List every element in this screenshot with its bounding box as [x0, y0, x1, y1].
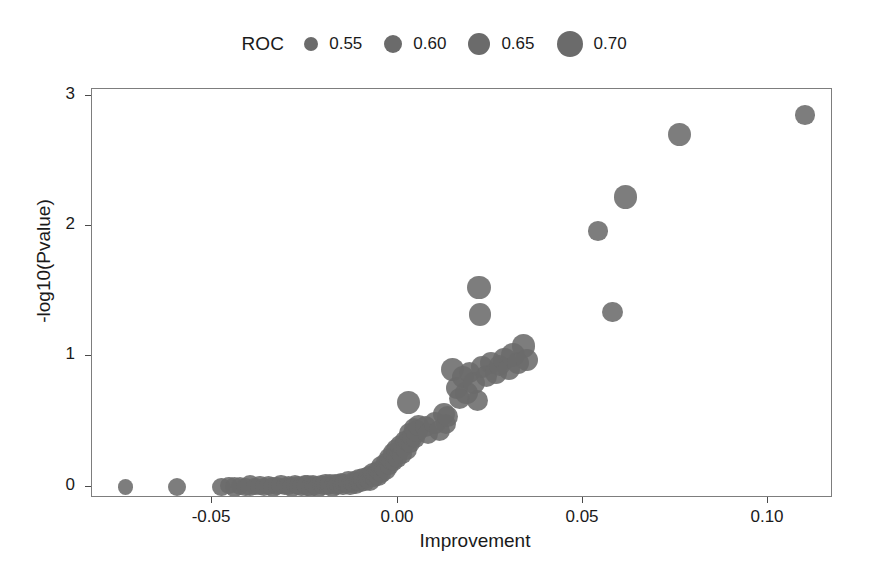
legend-dot-icon	[557, 31, 583, 57]
x-tick-label: 0.05	[547, 507, 617, 527]
legend-dot-icon	[468, 33, 490, 55]
data-point	[467, 276, 491, 300]
data-point	[467, 390, 488, 411]
data-point	[795, 105, 815, 125]
x-tick-label: 0.00	[362, 507, 432, 527]
legend-label: 0.65	[501, 34, 534, 54]
x-tick-mark	[397, 497, 398, 503]
data-point	[118, 479, 134, 495]
legend-label: 0.55	[329, 34, 362, 54]
x-tick-mark	[582, 497, 583, 503]
legend-item-2: 0.65	[468, 33, 534, 55]
x-tick-mark	[767, 497, 768, 503]
data-point	[668, 123, 691, 146]
x-tick-label: -0.05	[176, 507, 246, 527]
y-tick-label: 3	[35, 84, 75, 104]
legend-item-3: 0.70	[557, 31, 627, 57]
legend-dot-icon	[304, 37, 318, 51]
data-point	[614, 185, 638, 209]
data-point	[602, 302, 622, 322]
x-tick-label: 0.10	[732, 507, 802, 527]
legend-dot-icon	[384, 35, 402, 53]
data-point	[168, 478, 186, 496]
x-axis-title: Improvement	[0, 530, 890, 552]
legend-label: 0.60	[413, 34, 446, 54]
legend-item-1: 0.60	[384, 34, 446, 54]
plot-area	[91, 88, 832, 497]
data-point	[588, 221, 608, 241]
x-tick-mark	[211, 497, 212, 503]
data-points-layer	[92, 89, 831, 496]
y-axis-title: -log10(Pvalue)	[33, 141, 55, 381]
y-tick-label: 0	[35, 475, 75, 495]
legend-item-0: 0.55	[304, 34, 362, 54]
scatter-plot-figure: ROC 0.55 0.60 0.65 0.70 0123 -0.050.000.…	[0, 0, 890, 587]
roc-size-legend: ROC 0.55 0.60 0.65 0.70	[0, 22, 890, 66]
legend-title: ROC	[241, 33, 284, 55]
legend-label: 0.70	[594, 34, 627, 54]
data-point	[469, 303, 492, 326]
data-point	[516, 349, 538, 371]
data-point	[397, 391, 420, 414]
